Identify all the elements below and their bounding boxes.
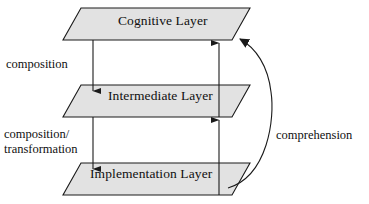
- edge-label-comprehension: comprehension: [276, 128, 352, 143]
- edge-label-composition-transformation-line1: composition/: [4, 127, 78, 142]
- edge-label-composition: composition: [6, 57, 68, 72]
- layer-label-cognitive: Cognitive Layer: [118, 13, 208, 29]
- edge-label-composition-transformation: composition/ transformation: [4, 127, 78, 157]
- layer-label-implementation: Implementation Layer: [90, 166, 212, 182]
- edge-label-composition-transformation-line2: transformation: [4, 142, 78, 157]
- layer-label-intermediate: Intermediate Layer: [108, 88, 213, 104]
- layered-architecture-diagram: Cognitive Layer Intermediate Layer Imple…: [0, 0, 369, 204]
